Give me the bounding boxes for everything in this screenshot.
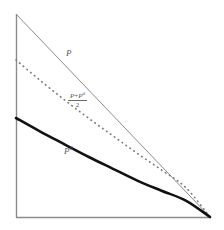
curve-p — [16, 14, 210, 217]
numerator-second-superscript: d — [83, 91, 85, 96]
curve-label-p: P — [66, 49, 72, 58]
figure-container: P P+Pd 2 Pd — [0, 0, 224, 230]
fraction-numerator: P+Pd — [68, 92, 87, 101]
curve-label-p-text: P — [66, 48, 72, 58]
curve-label-average: P+Pd 2 — [68, 92, 87, 109]
fraction-denominator: 2 — [68, 101, 87, 109]
figure-canvas — [0, 0, 224, 230]
curve-average — [16, 60, 210, 217]
fraction: P+Pd 2 — [68, 92, 87, 109]
curve-label-pd: Pd — [64, 147, 73, 156]
curve-label-pd-superscript: d — [70, 144, 73, 151]
curve-pd — [16, 118, 210, 217]
